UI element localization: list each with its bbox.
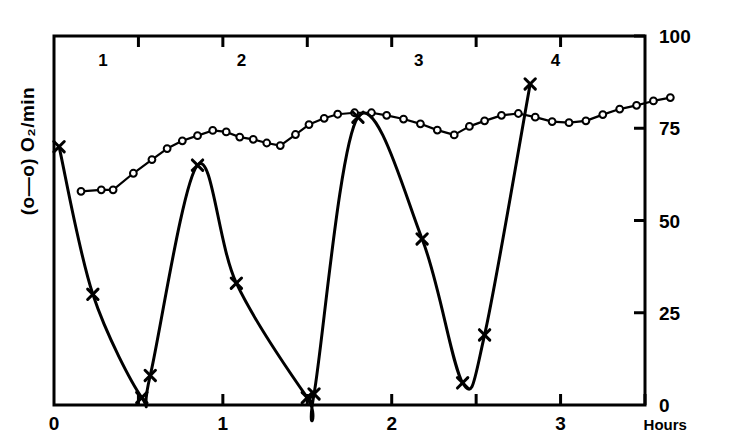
data-point-circle	[583, 117, 590, 124]
data-point-circle	[110, 186, 117, 193]
data-point-circle	[566, 119, 573, 126]
data-point-circle	[209, 127, 216, 134]
data-point-circle	[78, 188, 85, 195]
series-o2	[78, 94, 674, 195]
data-point-circle	[383, 112, 390, 119]
data-point-circle	[306, 121, 313, 128]
y2-tick-label: 0	[659, 395, 670, 416]
phase-annotations: 1234	[98, 51, 561, 70]
data-point-circle	[277, 142, 284, 149]
data-point-circle	[466, 123, 473, 130]
data-point-circle	[599, 111, 606, 118]
data-point-circle	[250, 136, 257, 143]
data-point-x	[457, 378, 467, 388]
x-tick-label: 0	[49, 413, 60, 434]
o2-markers	[78, 94, 674, 195]
data-point-circle	[223, 129, 230, 136]
y2-tick-label: 100	[659, 26, 691, 47]
data-point-circle	[481, 117, 488, 124]
left-axis-label-text: (o—o) O₂/min	[17, 87, 38, 215]
x-tick-label: 3	[555, 413, 566, 434]
phase-label: 1	[98, 51, 107, 70]
y2-tick-label: 50	[659, 211, 680, 232]
phase-label: 4	[551, 51, 561, 70]
data-point-circle	[334, 111, 341, 118]
x-axis-unit-label: Hours	[644, 416, 687, 433]
data-point-circle	[321, 115, 328, 122]
top-axis-ticks	[138, 36, 560, 47]
nuclei-markers	[54, 79, 536, 403]
x-tick-label: 1	[218, 413, 229, 434]
data-point-circle	[164, 145, 171, 152]
data-point-circle	[149, 156, 156, 163]
data-point-circle	[616, 106, 623, 113]
data-point-circle	[417, 120, 424, 127]
data-point-circle	[130, 170, 137, 177]
data-point-circle	[532, 114, 539, 121]
x-axis-tick-labels: 0123	[49, 413, 566, 434]
data-point-x	[192, 160, 202, 170]
data-point-circle	[194, 132, 201, 139]
data-point-circle	[515, 110, 522, 117]
data-point-circle	[179, 137, 186, 144]
data-point-circle	[434, 127, 441, 134]
phase-label: 2	[237, 51, 246, 70]
data-point-circle	[650, 98, 657, 105]
data-point-circle	[633, 102, 640, 109]
chart-canvas: 0123 Hours 0255075100 1234	[0, 0, 739, 446]
data-point-circle	[451, 131, 458, 138]
phase-label: 3	[414, 51, 423, 70]
y2-axis-tick-labels: 0255075100	[659, 26, 691, 416]
data-point-circle	[498, 112, 505, 119]
data-point-circle	[292, 131, 299, 138]
data-point-circle	[549, 118, 556, 125]
y2-tick-label: 75	[659, 118, 681, 139]
y2-tick-label: 25	[659, 303, 681, 324]
figure-panel: (o—o) O₂/min (x—x) % eggs having "whole"…	[0, 0, 739, 446]
x-tick-label: 2	[386, 413, 397, 434]
data-point-circle	[236, 134, 243, 141]
data-point-circle	[263, 140, 270, 147]
data-point-circle	[667, 94, 674, 101]
data-point-circle	[98, 186, 105, 193]
plot-frame	[54, 36, 645, 405]
x-axis-ticks	[138, 394, 645, 405]
y2-axis-ticks	[634, 36, 645, 313]
data-point-circle	[400, 116, 407, 123]
left-axis-label: (o—o) O₂/min	[17, 41, 39, 261]
